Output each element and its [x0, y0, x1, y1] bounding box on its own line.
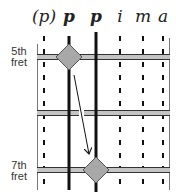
marker-diamond-5th-fret: [56, 44, 82, 70]
marker-diamond-7th-fret: [83, 157, 109, 183]
fretboard: [0, 0, 179, 196]
fret-6: [37, 108, 170, 118]
